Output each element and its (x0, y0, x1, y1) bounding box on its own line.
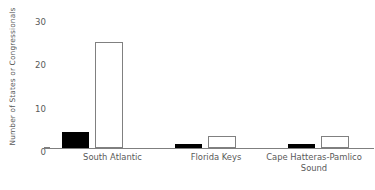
bar-cape-hatteras-black (288, 144, 315, 148)
bar-florida-keys-black (175, 144, 202, 148)
y-tick-label-20: 20 (24, 61, 46, 70)
x-axis-line (44, 148, 374, 149)
bar-south-atlantic-black (62, 132, 89, 148)
y-tick-label-0: 0 (24, 148, 46, 157)
bar-florida-keys-white (208, 136, 236, 148)
x-category-label-0: South Atlantic (55, 152, 170, 163)
bar-chart: Number of States or Congressionals 0 10 … (0, 0, 375, 190)
y-tick-label-30: 30 (24, 18, 46, 27)
bar-south-atlantic-white (95, 42, 123, 148)
y-axis-title: Number of States or Congressionals (8, 2, 17, 152)
plot-area (50, 18, 372, 148)
x-category-label-1: Florida Keys (168, 152, 264, 163)
bar-cape-hatteras-white (321, 136, 349, 148)
y-tick-label-10: 10 (24, 105, 46, 114)
x-category-label-2: Cape Hatteras-Pamlico Sound (258, 152, 370, 173)
